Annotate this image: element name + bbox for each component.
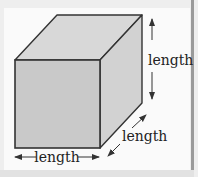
height-label: length xyxy=(148,52,193,68)
cube-front-face xyxy=(15,60,100,148)
width-label: length xyxy=(34,149,79,165)
diagram-frame: length length length xyxy=(0,0,198,177)
depth-label: length xyxy=(122,128,167,144)
cube-diagram: length length length xyxy=(0,0,198,177)
